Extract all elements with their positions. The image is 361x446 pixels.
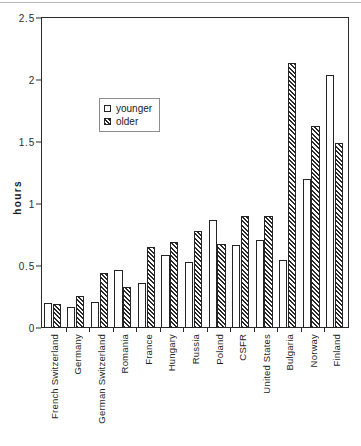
y-axis-title: hours — [12, 180, 23, 215]
x-axis-label: CSFR — [237, 334, 248, 361]
bar-group — [183, 18, 207, 328]
bars-layer — [42, 18, 348, 328]
bar-older — [100, 273, 108, 328]
bar-younger — [303, 179, 311, 328]
bar-older — [217, 244, 225, 328]
bar-group — [42, 18, 66, 328]
legend-swatch-older — [104, 118, 111, 125]
bar-group — [254, 18, 278, 328]
bar-younger — [326, 75, 334, 328]
x-tick-mark — [113, 328, 114, 332]
bar-younger — [185, 262, 193, 328]
y-tick-label: 0 — [29, 323, 35, 334]
x-tick-mark — [254, 328, 255, 332]
bar-older — [147, 247, 155, 328]
x-axis-label: France — [143, 334, 154, 365]
bar-group — [136, 18, 160, 328]
x-tick-mark — [324, 328, 325, 332]
bar-group — [113, 18, 137, 328]
y-tick-label: 1.5 — [19, 137, 35, 148]
bar-older — [288, 63, 296, 328]
bar-younger — [279, 260, 287, 328]
bar-older — [335, 143, 343, 328]
bar-group — [230, 18, 254, 328]
x-axis-labels: French SwitzerlandGermanyGerman Switzerl… — [42, 334, 348, 446]
x-tick-mark — [277, 328, 278, 332]
bar-younger — [67, 307, 75, 328]
bar-older — [123, 287, 131, 328]
x-axis-label: Bulgaria — [284, 334, 295, 370]
x-axis-label: Finland — [331, 334, 342, 367]
legend-item: younger — [104, 102, 152, 115]
bar-older — [194, 231, 202, 328]
bar-older — [76, 296, 84, 328]
bar-older — [241, 216, 249, 328]
x-tick-mark — [207, 328, 208, 332]
x-tick-mark — [66, 328, 67, 332]
bar-chart-figure: 00.511.522.5 hours French SwitzerlandGer… — [0, 0, 361, 446]
legend-label: older — [116, 116, 138, 127]
bar-older — [264, 216, 272, 328]
x-tick-mark — [160, 328, 161, 332]
bar-younger — [91, 302, 99, 328]
x-axis-label: Romania — [119, 334, 130, 373]
y-tick-label: 0.5 — [19, 261, 35, 272]
bar-younger — [138, 283, 146, 328]
y-tick-label: 2.5 — [19, 13, 35, 24]
y-axis: 00.511.522.5 — [0, 8, 41, 338]
bar-younger — [209, 220, 217, 328]
x-tick-mark — [230, 328, 231, 332]
bar-group — [66, 18, 90, 328]
bar-older — [53, 304, 61, 328]
bar-younger — [114, 270, 122, 328]
bar-older — [311, 126, 319, 328]
scan-line-artifact — [0, 2, 361, 3]
x-axis-label: Germany — [72, 334, 83, 374]
bar-group — [89, 18, 113, 328]
chart-legend: youngerolder — [99, 98, 160, 132]
bar-younger — [256, 240, 264, 328]
x-axis-label: United States — [261, 334, 272, 394]
bar-younger — [44, 303, 52, 328]
x-axis-label: Russia — [190, 334, 201, 364]
x-tick-mark — [301, 328, 302, 332]
x-tick-mark — [183, 328, 184, 332]
legend-swatch-younger — [104, 105, 111, 112]
bar-younger — [161, 255, 169, 328]
y-tick-label: 1 — [29, 199, 35, 210]
bar-group — [207, 18, 231, 328]
x-axis-label: French Switzerland — [49, 334, 60, 419]
x-axis-label: Norway — [308, 334, 319, 367]
x-tick-mark — [89, 328, 90, 332]
y-tick-label: 2 — [29, 75, 35, 86]
bar-older — [170, 242, 178, 328]
x-axis-label: Hungary — [166, 334, 177, 371]
bar-group — [324, 18, 348, 328]
legend-item: older — [104, 115, 152, 128]
x-axis-ticks — [42, 328, 348, 333]
x-axis-label: German Switzerland — [96, 334, 107, 424]
bar-younger — [232, 245, 240, 328]
legend-label: younger — [116, 103, 152, 114]
bar-group — [277, 18, 301, 328]
bar-group — [160, 18, 184, 328]
x-tick-mark — [136, 328, 137, 332]
x-axis-label: Poland — [214, 334, 225, 365]
bar-group — [301, 18, 325, 328]
